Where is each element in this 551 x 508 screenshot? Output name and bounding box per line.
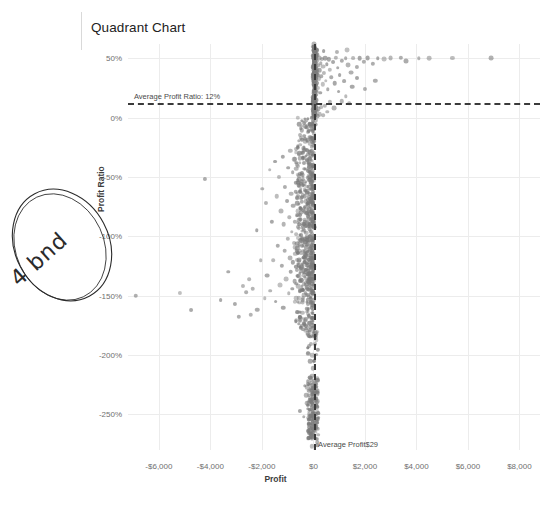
data-point (309, 433, 313, 437)
data-point (306, 225, 310, 229)
data-point (296, 274, 300, 278)
data-point (299, 310, 302, 313)
data-point (309, 399, 312, 402)
data-point (301, 221, 306, 226)
data-point (289, 191, 294, 196)
data-point (297, 251, 300, 254)
data-point (306, 273, 310, 277)
data-point (294, 190, 299, 195)
data-point (303, 224, 307, 228)
data-point (295, 250, 299, 254)
data-point (300, 125, 303, 128)
data-point (308, 281, 312, 285)
data-point (303, 205, 307, 209)
data-point (304, 199, 308, 203)
data-point (295, 163, 299, 167)
data-point (298, 265, 301, 268)
data-point (300, 237, 304, 241)
data-point (305, 189, 310, 194)
data-point (299, 279, 302, 282)
data-point (298, 243, 301, 246)
data-point (308, 429, 313, 434)
data-point (305, 307, 310, 312)
data-point (296, 213, 300, 217)
y-axis-tick-label: -200% (82, 351, 122, 360)
data-point (306, 213, 309, 216)
data-point (303, 319, 307, 323)
data-point (293, 299, 297, 303)
data-point (297, 172, 301, 176)
data-point (295, 191, 298, 194)
data-point (308, 211, 313, 216)
data-point (305, 126, 308, 129)
data-point (281, 222, 286, 227)
data-point (309, 297, 313, 301)
data-point (268, 289, 272, 293)
data-point (287, 216, 290, 219)
data-point (297, 145, 300, 148)
data-point (305, 148, 309, 152)
data-point (283, 184, 287, 188)
data-point (286, 166, 290, 170)
data-point (332, 81, 337, 86)
data-point (305, 202, 309, 206)
data-point (316, 426, 319, 429)
data-point (299, 187, 302, 190)
data-point (307, 276, 311, 280)
data-point (307, 429, 311, 433)
data-point (319, 91, 323, 95)
y-axis-tick-label: 0% (82, 113, 122, 122)
data-point (307, 178, 311, 182)
data-point (299, 278, 304, 283)
data-point (305, 310, 309, 314)
data-point (293, 220, 297, 224)
data-point (306, 263, 311, 268)
data-point (301, 191, 304, 194)
data-point (298, 315, 302, 319)
data-point (300, 244, 304, 248)
data-point (331, 60, 335, 64)
data-point (307, 165, 311, 169)
data-point (298, 315, 302, 319)
data-point (308, 321, 313, 326)
data-point (301, 230, 304, 233)
data-point (308, 328, 312, 332)
data-point (297, 180, 301, 184)
data-point (255, 229, 259, 233)
data-point (304, 277, 308, 281)
data-point (305, 300, 308, 303)
data-point (296, 251, 300, 255)
data-point (298, 143, 302, 147)
data-point (307, 410, 310, 413)
data-point (305, 256, 309, 260)
data-point (306, 329, 310, 333)
data-point (309, 197, 313, 201)
data-point (298, 182, 302, 186)
data-point (305, 272, 310, 277)
data-point (296, 144, 300, 148)
data-point (302, 161, 306, 165)
data-point (300, 288, 304, 292)
data-point (296, 258, 301, 263)
data-point (296, 284, 301, 289)
data-point (309, 125, 313, 129)
data-point (302, 237, 306, 241)
gridline-horizontal (128, 118, 540, 119)
data-point (301, 296, 305, 300)
data-point (309, 399, 312, 402)
data-point (299, 267, 303, 271)
data-point (308, 271, 312, 275)
data-point (316, 73, 320, 77)
data-point (304, 253, 309, 258)
data-point (303, 260, 307, 264)
data-point (306, 403, 310, 407)
data-point (308, 375, 313, 380)
data-point (309, 245, 313, 249)
data-point (301, 328, 305, 332)
data-point (233, 302, 237, 306)
data-point (299, 207, 303, 211)
data-point (302, 208, 306, 212)
data-point (307, 163, 311, 167)
data-point (306, 237, 311, 242)
data-point (335, 50, 339, 54)
